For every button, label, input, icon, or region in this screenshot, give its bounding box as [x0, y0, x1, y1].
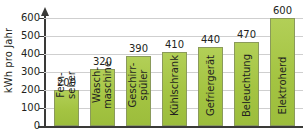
- bar-value-label: 390: [123, 44, 155, 54]
- y-tick-label: 200: [14, 85, 40, 95]
- y-axis-tick: [39, 90, 44, 91]
- y-axis-tick: [39, 72, 44, 73]
- bar: [198, 47, 223, 126]
- y-axis-tick: [39, 126, 44, 127]
- bar: [126, 56, 151, 126]
- y-tick-labels: 0100200300400500600: [14, 9, 40, 127]
- y-tick-label: 600: [14, 13, 40, 23]
- bar-value-label: 320: [87, 57, 119, 67]
- y-axis-title-text: kWh pro Jahr: [3, 27, 14, 92]
- y-axis-tick: [39, 18, 44, 19]
- y-axis-arrow-icon: [41, 7, 49, 16]
- bar-chart: kWh pro Jahr 0100200300400500600 Fern-se…: [0, 0, 307, 135]
- bar-value-label: 600: [267, 6, 299, 16]
- bar-value-label: 200: [51, 78, 83, 88]
- bar: [54, 90, 79, 126]
- y-tick-label: 0: [14, 121, 40, 131]
- y-axis-tick: [39, 54, 44, 55]
- y-axis-tick: [39, 36, 44, 37]
- y-tick-label: 100: [14, 103, 40, 113]
- plot-area: Fern-seher200Wasch-maschine320Geschirr-s…: [44, 9, 303, 127]
- gridline: [44, 18, 303, 19]
- bar-value-label: 440: [195, 35, 227, 45]
- bar: [270, 18, 295, 126]
- bar-value-label: 470: [231, 30, 263, 40]
- y-tick-label: 300: [14, 67, 40, 77]
- bar: [90, 69, 115, 127]
- y-tick-label: 400: [14, 49, 40, 59]
- x-axis-baseline: [38, 126, 303, 128]
- bar: [234, 42, 259, 126]
- gridline: [44, 36, 303, 37]
- bar-value-label: 410: [159, 40, 191, 50]
- y-axis-tick: [39, 108, 44, 109]
- y-tick-label: 500: [14, 31, 40, 41]
- y-axis-line: [44, 12, 46, 127]
- bar: [162, 52, 187, 126]
